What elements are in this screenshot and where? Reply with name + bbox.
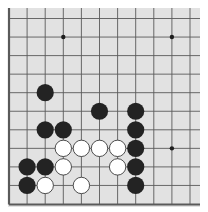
white-stone: [109, 140, 125, 156]
black-stone: [55, 121, 72, 138]
black-stone: [127, 103, 144, 120]
black-stone: [127, 177, 144, 194]
black-stone: [19, 177, 36, 194]
black-stone: [127, 140, 144, 157]
black-stone: [37, 121, 54, 138]
black-stone: [37, 84, 54, 101]
star-point: [170, 35, 174, 39]
black-stone: [127, 158, 144, 175]
black-stone: [37, 158, 54, 175]
black-stone: [127, 121, 144, 138]
white-stone: [37, 177, 53, 193]
star-point: [61, 35, 65, 39]
white-stone: [55, 159, 71, 175]
white-stone: [73, 177, 89, 193]
star-point: [170, 146, 174, 150]
white-stone: [91, 140, 107, 156]
white-stone: [73, 140, 89, 156]
white-stone: [55, 140, 71, 156]
black-stone: [19, 158, 36, 175]
black-stone: [91, 103, 108, 120]
white-stone: [109, 159, 125, 175]
go-board: [0, 0, 208, 212]
